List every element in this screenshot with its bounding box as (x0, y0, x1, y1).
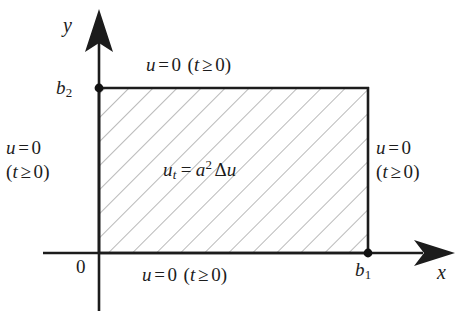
bc-top-paren-close: ) (225, 54, 232, 75)
bc-left-variable: u (6, 137, 16, 158)
corner-marker-bottom-right (364, 249, 373, 258)
bc-top-condition-value: 0 (215, 54, 225, 75)
bc-left-operator: = (16, 137, 32, 158)
bc-bottom-condition-value: 0 (211, 264, 221, 285)
bc-right-variable: u (376, 137, 386, 158)
pde-equation: ut=a2Δu (163, 157, 237, 184)
pde-lhs-variable: u (163, 159, 173, 180)
y-axis-tick-label-b2: b2 (56, 76, 72, 102)
bc-right-operator: = (386, 137, 402, 158)
figure-root: u=0(t≥0) u=0(t≥0) u=0 (t≥0) u=0 (t≥0) ut… (0, 0, 467, 318)
y-tick-base: b (56, 77, 66, 98)
bc-bottom-value: 0 (168, 264, 178, 285)
laplacian-icon: Δ (212, 159, 227, 180)
x-axis-label: x (437, 260, 446, 286)
bc-right-paren-close: ) (413, 161, 420, 182)
y-tick-subscript: 2 (66, 85, 73, 100)
bc-left-value: 0 (32, 137, 42, 158)
x-axis-tick-label-b1: b1 (355, 258, 371, 284)
bc-right-line-2: (t≥0) (376, 160, 420, 184)
x-tick-subscript: 1 (365, 267, 372, 282)
bc-top-condition-variable: t (194, 54, 199, 75)
bc-right-line-1: u=0 (376, 136, 420, 160)
x-tick-base: b (355, 259, 365, 280)
pde-equals-sign: = (177, 159, 196, 180)
boundary-condition-bottom: u=0(t≥0) (142, 263, 227, 287)
pde-lhs-subscript: t (173, 167, 177, 182)
corner-marker-top-left (95, 84, 104, 93)
bc-bottom-paren-close: ) (221, 264, 228, 285)
bc-right-relation: ≥ (388, 161, 404, 182)
boundary-condition-top: u=0(t≥0) (146, 53, 231, 77)
bc-top-relation: ≥ (200, 54, 216, 75)
boundary-condition-right: u=0 (t≥0) (376, 136, 420, 185)
bc-left-line-2: (t≥0) (6, 160, 50, 184)
bc-right-condition-value: 0 (404, 161, 414, 182)
bc-left-condition-value: 0 (34, 161, 44, 182)
bc-bottom-relation: ≥ (196, 264, 212, 285)
bc-top-value: 0 (172, 54, 182, 75)
bc-left-paren-close: ) (43, 161, 50, 182)
pde-rhs-variable: u (227, 159, 237, 180)
bc-left-line-1: u=0 (6, 136, 50, 160)
bc-top-paren-open: ( (181, 54, 194, 75)
bc-bottom-operator: = (152, 264, 168, 285)
bc-top-operator: = (156, 54, 172, 75)
y-axis-label: y (63, 13, 72, 39)
bc-bottom-variable: u (142, 264, 152, 285)
bc-top-variable: u (146, 54, 156, 75)
bc-bottom-paren-open: ( (177, 264, 190, 285)
bc-bottom-condition-variable: t (190, 264, 195, 285)
bc-right-value: 0 (402, 137, 412, 158)
boundary-condition-left: u=0 (t≥0) (6, 136, 50, 185)
origin-label: 0 (76, 255, 86, 279)
bc-left-relation: ≥ (18, 161, 34, 182)
pde-coefficient: a (196, 159, 206, 180)
